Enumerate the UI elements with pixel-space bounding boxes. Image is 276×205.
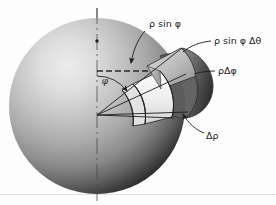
diagram-canvas: φ ρ sin φ ρ sin φ Δθ ρΔφ Δρ	[0, 0, 276, 205]
label-rho-sin-phi: ρ sin φ	[149, 18, 181, 29]
label-rho-delta-phi: ρΔφ	[218, 65, 237, 76]
spherical-coordinates-figure: φ ρ sin φ ρ sin φ Δθ ρΔφ Δρ	[0, 0, 276, 205]
north-pole-dot	[95, 39, 98, 42]
phi-angle-label: φ	[102, 76, 109, 86]
label-delta-rho: Δρ	[206, 130, 219, 141]
label-rho-sin-phi-delta-theta: ρ sin φ Δθ	[214, 35, 261, 46]
